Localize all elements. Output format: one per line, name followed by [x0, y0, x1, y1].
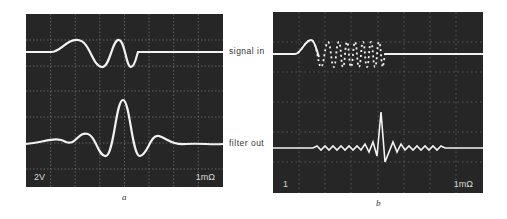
scope-trace-b	[273, 12, 483, 193]
oscilloscope-panel-b: 1 1mΩ	[273, 12, 483, 193]
signal-in-label: signal in	[229, 46, 265, 56]
scale-left-label-b: 1	[283, 179, 288, 189]
scale-right-label-b: 1mΩ	[454, 179, 473, 189]
caption-b: b	[376, 198, 381, 208]
scale-right-label-a: 1mΩ	[196, 172, 215, 182]
caption-a: a	[122, 192, 127, 202]
scope-trace-a	[26, 14, 223, 187]
filter-out-label: filter out	[229, 138, 264, 148]
oscilloscope-panel-a: 2V 1mΩ	[26, 14, 223, 187]
scale-left-label-a: 2V	[34, 172, 45, 182]
